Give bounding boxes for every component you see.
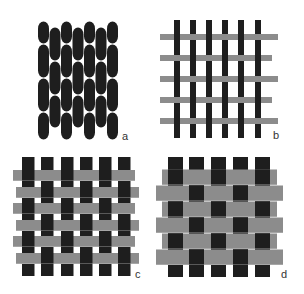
panel-d-label: d <box>281 268 287 280</box>
warp-over-crossing <box>222 55 228 61</box>
yarn-segment <box>61 45 72 78</box>
warp-over-crossing <box>255 97 261 103</box>
warp-over-crossing <box>255 202 270 218</box>
warp-over-crossing <box>238 118 244 124</box>
warp-over-crossing <box>238 76 244 82</box>
yarn-segment <box>107 113 118 140</box>
yarn-segment <box>61 22 72 44</box>
warp-over-crossing <box>168 202 183 218</box>
warp-over-crossing <box>211 234 226 250</box>
warp-over-crossing <box>211 170 226 186</box>
weft-edge <box>162 216 277 217</box>
panel-c-label: c <box>135 268 141 280</box>
yarn-segment <box>73 28 84 61</box>
weft-edge <box>16 230 139 231</box>
warp-over-crossing <box>80 220 93 231</box>
warp-over-crossing <box>206 34 212 40</box>
warp-over-crossing <box>80 253 93 264</box>
yarn-segment <box>61 79 72 112</box>
weft-edge <box>156 264 283 265</box>
warp-over-crossing <box>255 55 261 61</box>
yarn-segment <box>96 96 107 128</box>
yarn-segment <box>84 45 95 78</box>
warp-over-crossing <box>168 234 183 250</box>
warp-over-crossing <box>255 234 270 250</box>
warp-over-crossing <box>189 186 204 202</box>
warp-over-crossing <box>41 253 54 264</box>
weft-yarn <box>156 218 283 234</box>
panel-d-dense-weave <box>156 157 283 277</box>
warp-over-crossing <box>174 76 180 82</box>
panel-b-open-weave <box>160 20 278 138</box>
warp-over-crossing <box>22 236 35 247</box>
warp-over-crossing <box>22 203 35 214</box>
weft-edge <box>13 180 135 181</box>
yarn-segment <box>38 22 49 44</box>
warp-over-crossing <box>118 253 131 264</box>
warp-over-crossing <box>233 186 248 202</box>
yarn-segment <box>50 28 61 61</box>
warp-over-crossing <box>99 170 112 181</box>
weft-edge <box>156 232 283 233</box>
weft-edge <box>162 184 277 185</box>
yarn-segment <box>38 113 49 140</box>
weft-edge <box>16 263 139 264</box>
yarn-segment <box>38 79 49 112</box>
warp-over-crossing <box>41 187 54 198</box>
warp-over-crossing <box>206 118 212 124</box>
weft-edge <box>13 213 135 214</box>
warp-over-crossing <box>222 97 228 103</box>
warp-over-crossing <box>41 220 54 231</box>
warp-over-crossing <box>118 187 131 198</box>
weave-diagram-figure: a b c d <box>0 0 304 294</box>
warp-over-crossing <box>211 202 226 218</box>
yarn-segment <box>107 79 118 112</box>
warp-over-crossing <box>168 170 183 186</box>
warp-over-crossing <box>80 187 93 198</box>
yarn-segment <box>73 62 84 95</box>
yarn-segment <box>96 28 107 61</box>
warp-over-crossing <box>238 34 244 40</box>
weft-edge <box>156 200 283 201</box>
warp-over-crossing <box>99 236 112 247</box>
panel-b-label: b <box>273 129 279 141</box>
yarn-segment <box>73 96 84 128</box>
warp-over-crossing <box>61 203 74 214</box>
warp-over-crossing <box>233 250 248 266</box>
yarn-segment <box>96 62 107 95</box>
warp-over-crossing <box>61 236 74 247</box>
weft-yarn <box>156 186 283 202</box>
warp-over-crossing <box>233 218 248 234</box>
warp-over-crossing <box>189 250 204 266</box>
warp-over-crossing <box>189 218 204 234</box>
panel-a-packed-yarns <box>38 22 118 140</box>
yarn-segment <box>50 62 61 95</box>
warp-over-crossing <box>255 170 270 186</box>
warp-over-crossing <box>206 76 212 82</box>
yarn-segment <box>38 45 49 78</box>
yarn-segment <box>50 96 61 128</box>
weft-edge <box>13 246 135 247</box>
warp-over-crossing <box>61 170 74 181</box>
weft-edge <box>162 248 277 249</box>
warp-over-crossing <box>190 97 196 103</box>
yarn-segment <box>84 79 95 112</box>
weft-edge <box>16 197 139 198</box>
warp-over-crossing <box>99 203 112 214</box>
yarn-segment <box>61 113 72 140</box>
warp-over-crossing <box>174 34 180 40</box>
yarn-segment <box>107 45 118 78</box>
weft-yarn <box>156 250 283 266</box>
panel-c-medium-weave <box>13 157 139 276</box>
warp-over-crossing <box>22 170 35 181</box>
yarn-segment <box>107 22 118 44</box>
panel-a-label: a <box>122 130 129 142</box>
warp-over-crossing <box>118 220 131 231</box>
yarn-segment <box>84 113 95 140</box>
yarn-segment <box>84 22 95 44</box>
warp-over-crossing <box>190 55 196 61</box>
warp-over-crossing <box>174 118 180 124</box>
